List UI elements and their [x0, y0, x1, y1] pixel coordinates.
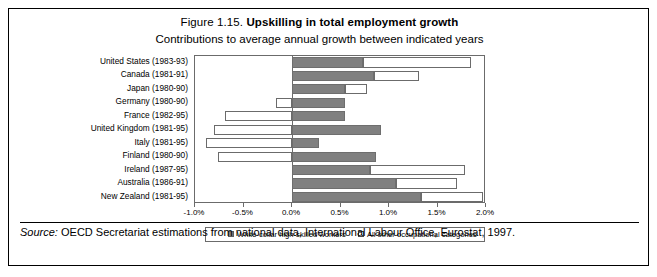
- bar-row: [195, 137, 484, 150]
- category-label: Japan (1980-90): [127, 82, 188, 95]
- bar-skilled: [292, 178, 396, 188]
- axis-tick-label: -0.5%: [232, 208, 253, 217]
- bar-other: [345, 84, 366, 94]
- category-label: Australia (1986-91): [117, 176, 188, 189]
- figure-subtitle: Contributions to average annual growth b…: [10, 33, 629, 45]
- figure-panel: Figure 1.15. Upskilling in total employm…: [0, 0, 657, 277]
- bar-skilled: [292, 57, 363, 67]
- figure-content: Figure 1.15. Upskilling in total employm…: [10, 10, 629, 246]
- category-label: Germany (1980-90): [116, 95, 188, 108]
- bar-other: [225, 111, 292, 121]
- bar-row: [195, 56, 484, 69]
- bar-other: [218, 152, 292, 162]
- bar-skilled: [292, 192, 421, 202]
- axis-tick-label: 1.0%: [379, 208, 397, 217]
- source-text: OECD Secretariat estimations from nation…: [61, 226, 515, 238]
- axis-tick-label: 0.0%: [282, 208, 300, 217]
- bar-other: [396, 178, 457, 188]
- bar-row: [195, 177, 484, 190]
- bar-other: [370, 165, 465, 175]
- bar-row: [195, 83, 484, 96]
- axis-tick: [291, 203, 292, 207]
- category-label: United Kingdom (1981-95): [91, 122, 188, 135]
- bar-other: [374, 71, 419, 81]
- bar-other: [421, 192, 483, 202]
- bar-row: [195, 191, 484, 204]
- axis-tick: [485, 203, 486, 207]
- bar-row: [195, 164, 484, 177]
- category-label: Canada (1981-91): [121, 68, 188, 81]
- axis-tick-label: 1.5%: [427, 208, 445, 217]
- bar-other: [363, 57, 472, 67]
- source-label: Source:: [20, 226, 58, 238]
- category-label: United States (1983-93): [100, 55, 188, 68]
- plot-area: [194, 55, 485, 203]
- bar-other: [206, 138, 292, 148]
- bar-row: [195, 110, 484, 123]
- bar-row: [195, 69, 484, 82]
- axis-tick: [243, 203, 244, 207]
- source-divider: [20, 222, 639, 223]
- bar-chart: United States (1983-93)Canada (1981-91)J…: [10, 55, 629, 215]
- category-label: Italy (1981-95): [135, 136, 189, 149]
- category-axis: United States (1983-93)Canada (1981-91)J…: [10, 55, 194, 203]
- bar-skilled: [292, 138, 319, 148]
- bar-other: [276, 98, 292, 108]
- bar-row: [195, 123, 484, 136]
- source-note: Source: OECD Secretariat estimations fro…: [20, 226, 639, 238]
- bar-row: [195, 150, 484, 163]
- axis-tick-label: -1.0%: [184, 208, 205, 217]
- axis-tick: [194, 203, 195, 207]
- category-label: Ireland (1987-95): [124, 163, 188, 176]
- axis-tick: [437, 203, 438, 207]
- bar-skilled: [292, 152, 376, 162]
- bar-skilled: [292, 165, 370, 175]
- bar-skilled: [292, 98, 345, 108]
- bar-skilled: [292, 111, 345, 121]
- category-label: Finland (1980-90): [123, 149, 189, 162]
- axis-tick: [388, 203, 389, 207]
- axis-tick-label: 0.5%: [330, 208, 348, 217]
- axis-tick-label: 2.0%: [476, 208, 494, 217]
- axis-tick: [340, 203, 341, 207]
- bar-other: [214, 125, 292, 135]
- figure-title: Figure 1.15. Upskilling in total employm…: [10, 16, 629, 28]
- category-label: New Zealand (1981-95): [101, 190, 188, 203]
- bar-skilled: [292, 125, 381, 135]
- bar-skilled: [292, 84, 345, 94]
- category-label: France (1982-95): [124, 109, 188, 122]
- figure-number: Figure 1.15.: [181, 16, 244, 28]
- figure-title-text: Upskilling in total employment growth: [246, 16, 458, 28]
- bar-skilled: [292, 71, 374, 81]
- bar-row: [195, 96, 484, 109]
